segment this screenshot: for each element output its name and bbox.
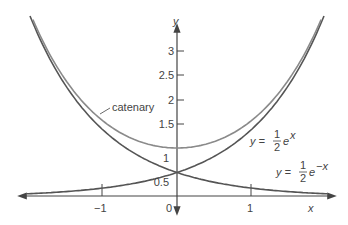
y-tick-15: 1.5 bbox=[159, 118, 174, 130]
svg-text:x: x bbox=[289, 129, 296, 141]
catenary-label: catenary bbox=[112, 101, 155, 113]
svg-text:2: 2 bbox=[300, 172, 306, 184]
y-tick-25: 2.5 bbox=[159, 69, 174, 81]
y-tick-3: 3 bbox=[168, 45, 174, 57]
x-tick-neg1: −1 bbox=[94, 202, 107, 214]
exp-x-label: y = 1 2 e x bbox=[249, 128, 296, 153]
y-tick-05: 0.5 bbox=[154, 176, 169, 188]
y-tick-1: 1 bbox=[163, 152, 169, 164]
svg-text:1: 1 bbox=[274, 128, 280, 140]
svg-text:−x: −x bbox=[316, 160, 328, 172]
y-ticks bbox=[177, 51, 184, 124]
y-tick-2: 2 bbox=[168, 94, 174, 106]
chart-container: y x −1 0 1 0.5 1 1.5 2 2.5 3 catenary y … bbox=[0, 0, 348, 225]
svg-text:y =: y = bbox=[249, 135, 266, 147]
x-axis-label: x bbox=[307, 202, 314, 214]
catenary-chart: y x −1 0 1 0.5 1 1.5 2 2.5 3 catenary y … bbox=[0, 0, 348, 225]
x-tick-1: 1 bbox=[247, 202, 253, 214]
exp-neg-x-label: y = 1 2 e −x bbox=[275, 159, 328, 184]
svg-text:e: e bbox=[283, 135, 289, 147]
svg-text:y =: y = bbox=[275, 166, 292, 178]
x-tick-0: 0 bbox=[166, 202, 172, 214]
y-axis-label: y bbox=[172, 15, 180, 27]
svg-text:1: 1 bbox=[300, 159, 306, 171]
svg-text:2: 2 bbox=[274, 141, 280, 153]
svg-text:e: e bbox=[309, 166, 315, 178]
